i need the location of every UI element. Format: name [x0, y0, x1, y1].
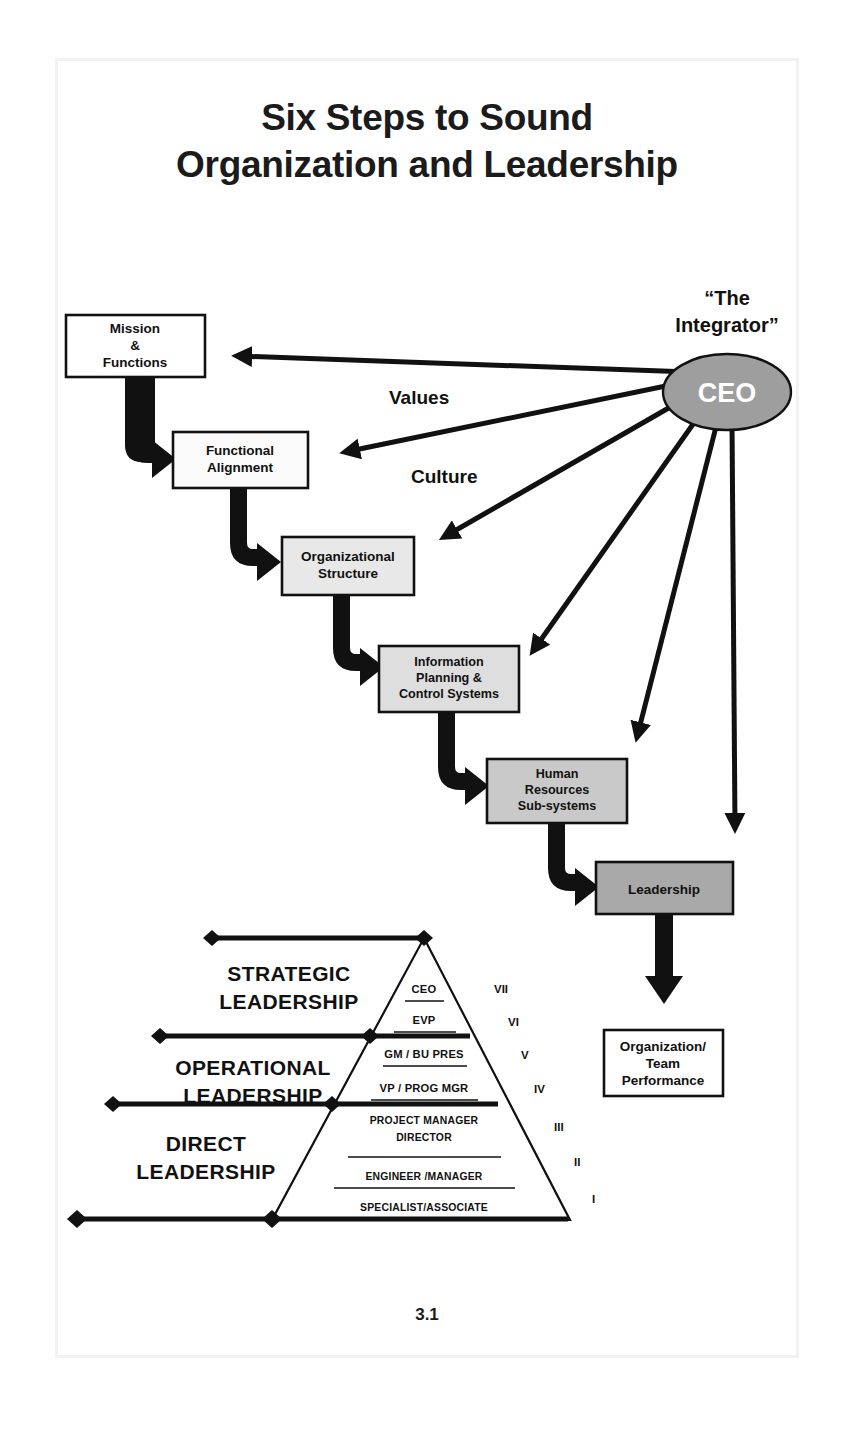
human-resources-line3: Sub-systems — [518, 799, 596, 813]
leadership-pyramid: CEO EVP GM / BU PRES VP / PROG MGR PROJE… — [67, 930, 595, 1228]
step-box-leadership[interactable]: Leadership — [596, 862, 733, 914]
step-box-information-planning-control-systems[interactable]: Information Planning & Control Systems — [379, 646, 519, 712]
tier-label-operational-line1: OPERATIONAL — [175, 1056, 331, 1079]
information-systems-line1: Information — [414, 655, 483, 669]
integrator-caption-line1: “The — [704, 287, 750, 309]
outcome-box-organization-team-performance[interactable]: Organization/ Team Performance — [604, 1030, 723, 1096]
page-title-line1: Six Steps to Sound — [261, 97, 593, 138]
organizational-structure-line2: Structure — [318, 566, 379, 581]
integrator-caption-line2: Integrator” — [675, 314, 778, 336]
page-title-line2: Organization and Leadership — [176, 144, 678, 185]
information-systems-line3: Control Systems — [399, 687, 499, 701]
information-systems-line2: Planning & — [416, 671, 482, 685]
fan-arrow-to-organizational-structure — [444, 394, 693, 537]
step-box-human-resources-sub-systems[interactable]: Human Resources Sub-systems — [487, 759, 627, 823]
ceo-node-label: CEO — [698, 378, 757, 408]
tier-label-direct-line1: DIRECT — [166, 1132, 247, 1155]
pyramid-numeral-ii: II — [574, 1156, 580, 1168]
tier-label-operational-line2: LEADERSHIP — [183, 1084, 322, 1107]
culture-label: Culture — [411, 466, 478, 487]
elbow-arrow-step5-to-step6 — [548, 824, 599, 906]
fan-arrow-to-human-resources — [637, 419, 718, 737]
slide-canvas: Six Steps to Sound Organization and Lead… — [0, 0, 854, 1452]
organizational-structure-line1: Organizational — [301, 549, 395, 564]
org-leadership-diagram: Six Steps to Sound Organization and Lead… — [0, 0, 854, 1452]
pyramid-numeral-v: V — [521, 1049, 529, 1061]
pyramid-role-ceo: CEO — [412, 983, 437, 995]
step-box-functional-alignment[interactable]: Functional Alignment — [173, 432, 308, 488]
mission-functions-line1: Mission — [110, 321, 160, 336]
fan-arrow-to-information-systems — [533, 410, 703, 651]
tier-label-direct-line2: LEADERSHIP — [136, 1160, 275, 1183]
page-number: 3.1 — [415, 1305, 439, 1324]
fan-arrow-to-mission-functions — [237, 356, 690, 372]
pyramid-role-specialist-associate: SPECIALIST/ASSOCIATE — [360, 1202, 488, 1213]
pyramid-role-project-manager: PROJECT MANAGER — [370, 1115, 479, 1126]
pyramid-role-director: DIRECTOR — [396, 1132, 452, 1143]
pyramid-numeral-iv: IV — [534, 1083, 545, 1095]
performance-line1: Organization/ — [620, 1039, 707, 1054]
tier-label-strategic-line2: LEADERSHIP — [219, 990, 358, 1013]
pyramid-numeral-vii: VII — [494, 983, 508, 995]
values-label: Values — [389, 387, 449, 408]
elbow-arrow-step1-to-step2 — [125, 378, 176, 478]
step-box-organizational-structure[interactable]: Organizational Structure — [282, 537, 414, 595]
pyramid-role-evp: EVP — [413, 1014, 436, 1026]
tier-bracket-base — [67, 1210, 568, 1228]
tier-bracket-operational — [151, 1028, 470, 1044]
mission-functions-line3: Functions — [103, 355, 168, 370]
human-resources-line1: Human — [536, 767, 579, 781]
functional-alignment-line2: Alignment — [207, 460, 274, 475]
pyramid-numeral-iii: III — [554, 1121, 564, 1133]
performance-line3: Performance — [622, 1073, 705, 1088]
tier-bracket-strategic — [203, 930, 433, 946]
step-box-mission-functions[interactable]: Mission & Functions — [66, 315, 205, 377]
performance-line2: Team — [646, 1056, 680, 1071]
arrow-leadership-to-performance — [645, 915, 683, 1004]
functional-alignment-line1: Functional — [206, 443, 274, 458]
pyramid-numeral-vi: VI — [508, 1016, 519, 1028]
elbow-arrow-step4-to-step5 — [438, 713, 489, 805]
pyramid-role-vp-prog-mgr: VP / PROG MGR — [380, 1082, 469, 1094]
tier-label-strategic-line1: STRATEGIC — [227, 962, 350, 985]
elbow-arrow-step3-to-step4 — [333, 596, 384, 686]
pyramid-numeral-i: I — [592, 1193, 595, 1205]
elbow-arrow-step2-to-step3 — [230, 489, 281, 581]
pyramid-role-gm-bu-pres: GM / BU PRES — [384, 1048, 464, 1060]
fan-arrow-to-leadership — [732, 421, 735, 828]
mission-functions-line2: & — [130, 338, 140, 353]
leadership-label: Leadership — [628, 882, 700, 897]
human-resources-line2: Resources — [525, 783, 589, 797]
pyramid-role-engineer-manager: ENGINEER /MANAGER — [365, 1171, 482, 1182]
